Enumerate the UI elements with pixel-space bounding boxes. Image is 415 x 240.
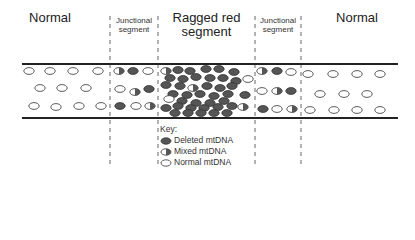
legend-item-mixed: Mixed mtDNA	[160, 146, 233, 157]
legend-item-deleted: Deleted mtDNA	[160, 135, 233, 146]
legend: Key: Deleted mtDNA Mixed mtDNA Normal mt…	[160, 124, 233, 168]
legend-title: Key:	[160, 124, 233, 135]
deleted-mtdna-icon	[160, 137, 172, 145]
normal-mtdna-icon	[160, 159, 172, 167]
legend-item-normal: Normal mtDNA	[160, 157, 233, 168]
mtdna-particles	[24, 66, 385, 117]
mixed-mtdna-icon	[160, 148, 172, 156]
legend-label-deleted: Deleted mtDNA	[174, 135, 233, 146]
legend-label-mixed: Mixed mtDNA	[174, 146, 226, 157]
legend-label-normal: Normal mtDNA	[174, 157, 231, 168]
